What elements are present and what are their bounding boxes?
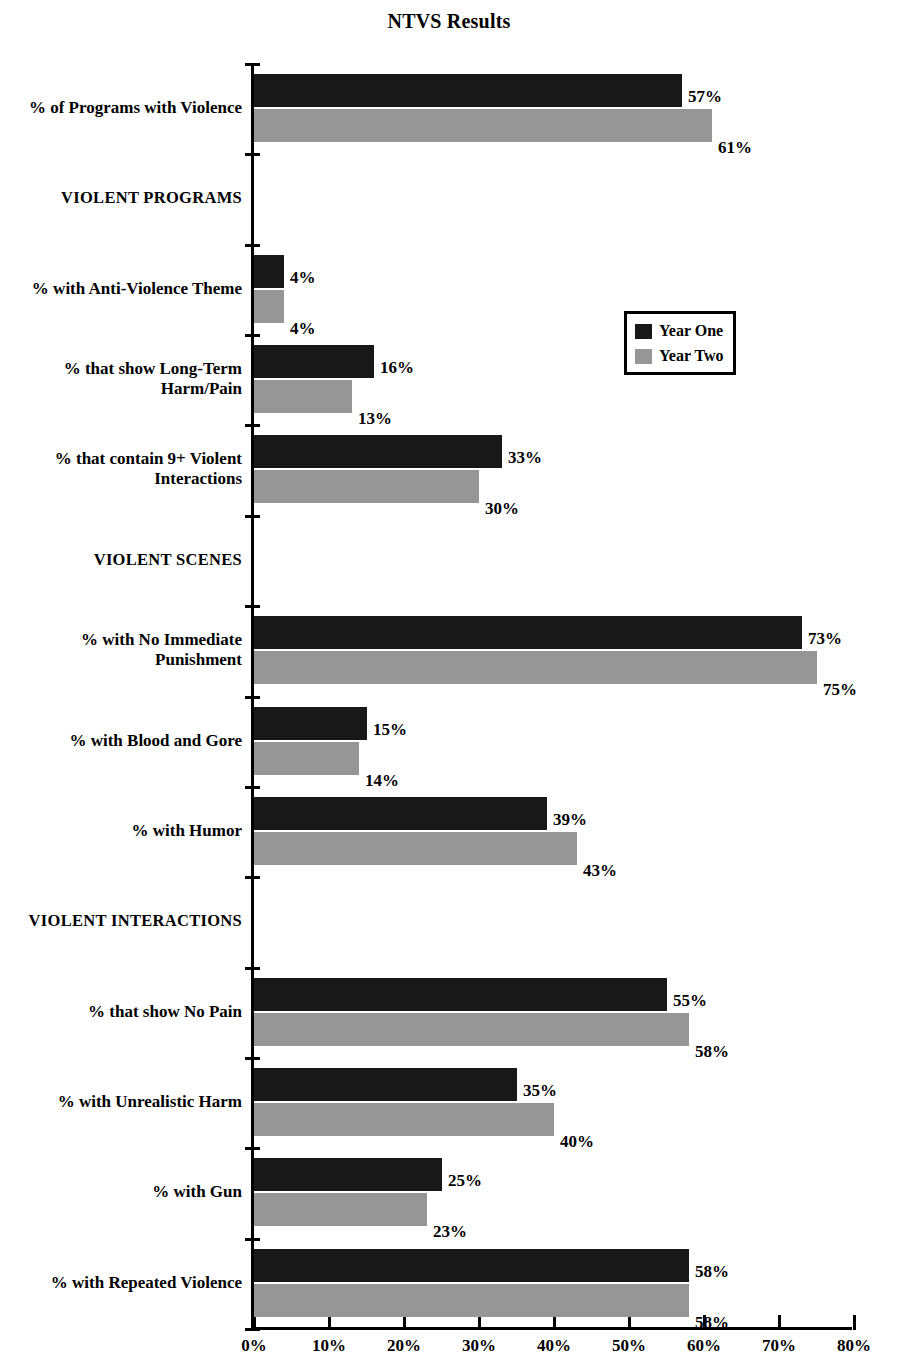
bar-year-one: [254, 1068, 517, 1101]
category-row: % that show Long-TermHarm/Pain16%13%: [0, 334, 898, 424]
bar-value-year-one: 58%: [695, 1262, 729, 1282]
bar-value-year-one: 4%: [290, 268, 316, 288]
legend-swatch-icon: [635, 324, 652, 339]
bar-year-two: [254, 832, 577, 865]
category-row: % with Unrealistic Harm35%40%: [0, 1057, 898, 1147]
category-label: % with Blood and Gore: [0, 731, 242, 751]
value-axis-tick-label: 50%: [594, 1336, 664, 1356]
bar-year-one: [254, 74, 682, 107]
legend-label: Year One: [659, 322, 723, 340]
bar-year-one: [254, 978, 667, 1011]
category-label-line: % with Gun: [152, 1182, 242, 1201]
category-label-line: % with Anti-Violence Theme: [32, 279, 242, 298]
category-label: % with No ImmediatePunishment: [0, 630, 242, 670]
bar-year-two: [254, 651, 817, 684]
bar-year-two: [254, 290, 284, 323]
category-label: % with Unrealistic Harm: [0, 1092, 242, 1112]
category-label: % with Repeated Violence: [0, 1273, 242, 1293]
bar-year-two: [254, 380, 352, 413]
value-axis-tick-label: 20%: [369, 1336, 439, 1356]
value-axis-tick-label: 60%: [669, 1336, 739, 1356]
section-header-row: VIOLENT SCENES: [0, 515, 898, 605]
category-label-line: % that show No Pain: [88, 1002, 242, 1021]
bar-year-two: [254, 1013, 689, 1046]
value-axis-tick-label: 80%: [819, 1336, 889, 1356]
category-label-line: % that show Long-Term: [64, 359, 242, 378]
chart-legend: Year OneYear Two: [624, 311, 736, 375]
bar-value-year-one: 35%: [523, 1081, 557, 1101]
category-label-line: VIOLENT SCENES: [94, 550, 242, 569]
section-header-row: VIOLENT INTERACTIONS: [0, 876, 898, 966]
category-row: % with Humor39%43%: [0, 786, 898, 876]
category-label-line: VIOLENT INTERACTIONS: [29, 911, 242, 930]
bar-year-two: [254, 1284, 689, 1317]
category-label-line: % with Unrealistic Harm: [58, 1092, 242, 1111]
legend-item: Year One: [635, 319, 723, 343]
category-label: % with Humor: [0, 821, 242, 841]
bar-year-one: [254, 616, 802, 649]
bar-year-one: [254, 1249, 689, 1282]
category-row: % with Gun25%23%: [0, 1147, 898, 1237]
bar-value-year-two: 58%: [695, 1313, 729, 1333]
bar-year-one: [254, 345, 374, 378]
section-header-label: VIOLENT PROGRAMS: [0, 188, 242, 207]
category-row: % with Repeated Violence58%58%: [0, 1238, 898, 1328]
category-label-line: % with Humor: [132, 821, 243, 840]
bar-year-two: [254, 1193, 427, 1226]
category-label-line: VIOLENT PROGRAMS: [61, 188, 242, 207]
category-row: % that contain 9+ ViolentInteractions33%…: [0, 424, 898, 514]
section-header-label: VIOLENT INTERACTIONS: [0, 911, 242, 930]
value-axis-tick-label: 70%: [744, 1336, 814, 1356]
bar-year-two: [254, 1103, 554, 1136]
plot-area: 0%10%20%30%40%50%60%70%80% % of Programs…: [0, 0, 898, 1370]
category-label-line: % with Repeated Violence: [51, 1273, 242, 1292]
category-label-line: % with Blood and Gore: [69, 731, 242, 750]
section-header-label: VIOLENT SCENES: [0, 550, 242, 569]
bar-year-two: [254, 470, 479, 503]
section-header-row: VIOLENT PROGRAMS: [0, 153, 898, 243]
category-label: % that show No Pain: [0, 1002, 242, 1022]
value-axis-tick-label: 10%: [294, 1336, 364, 1356]
bar-year-one: [254, 797, 547, 830]
value-axis-tick-label: 30%: [444, 1336, 514, 1356]
value-axis-tick-label: 40%: [519, 1336, 589, 1356]
category-row: % with Anti-Violence Theme4%4%: [0, 244, 898, 334]
category-label-line: Interactions: [154, 469, 242, 488]
category-row: % with No ImmediatePunishment73%75%: [0, 605, 898, 695]
bar-value-year-one: 16%: [380, 358, 414, 378]
category-row: % that show No Pain55%58%: [0, 967, 898, 1057]
category-label-line: Punishment: [155, 650, 242, 669]
legend-label: Year Two: [659, 347, 723, 365]
category-row: % of Programs with Violence57%61%: [0, 63, 898, 153]
bar-value-year-one: 57%: [688, 87, 722, 107]
category-label-line: Harm/Pain: [161, 379, 242, 398]
ntvs-results-chart: NTVS Results 0%10%20%30%40%50%60%70%80% …: [0, 0, 898, 1370]
category-label-line: % that contain 9+ Violent: [55, 449, 242, 468]
bar-value-year-one: 15%: [373, 720, 407, 740]
bar-year-one: [254, 435, 502, 468]
category-label-line: % with No Immediate: [81, 630, 242, 649]
bar-value-year-one: 25%: [448, 1171, 482, 1191]
category-label: % with Gun: [0, 1182, 242, 1202]
category-label: % that show Long-TermHarm/Pain: [0, 359, 242, 399]
bar-year-one: [254, 255, 284, 288]
bar-value-year-one: 73%: [808, 629, 842, 649]
bar-year-one: [254, 707, 367, 740]
category-label: % of Programs with Violence: [0, 98, 242, 118]
category-label: % that contain 9+ ViolentInteractions: [0, 449, 242, 489]
category-label: % with Anti-Violence Theme: [0, 279, 242, 299]
legend-swatch-icon: [635, 349, 652, 364]
bar-value-year-one: 39%: [553, 810, 587, 830]
bar-year-two: [254, 742, 359, 775]
value-axis-tick-label: 0%: [219, 1336, 289, 1356]
bar-value-year-one: 55%: [673, 991, 707, 1011]
legend-item: Year Two: [635, 344, 723, 368]
bar-value-year-one: 33%: [508, 448, 542, 468]
category-label-line: % of Programs with Violence: [29, 98, 242, 117]
category-row: % with Blood and Gore15%14%: [0, 696, 898, 786]
bar-year-two: [254, 109, 712, 142]
bar-year-one: [254, 1158, 442, 1191]
